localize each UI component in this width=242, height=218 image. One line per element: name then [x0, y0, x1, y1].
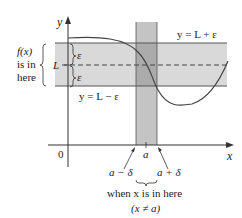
x-axis-label: x [226, 149, 233, 163]
a-plus-delta-label: a + δ [157, 166, 181, 178]
x-axis-arrow-icon [226, 142, 234, 148]
delta-brace [136, 180, 157, 186]
x-not-a-label: (x ≠ a) [131, 202, 161, 215]
arrow-head-right-icon [158, 147, 162, 152]
is-in-label: is in [17, 58, 36, 70]
a-minus-delta-label: a − δ [109, 166, 133, 178]
origin-label: 0 [58, 148, 64, 160]
epsilon-upper-label: ε [77, 49, 82, 61]
epsilon-delta-diagram: y x 0 y = L + ε y = L − ε L ε ε f(x) is … [0, 0, 242, 218]
lower-bound-label: y = L − ε [79, 90, 119, 102]
fx-label: f(x) [17, 45, 33, 58]
fx-brace [40, 44, 46, 86]
upper-bound-label: y = L + ε [177, 28, 217, 40]
y-axis-arrow-icon [65, 16, 71, 24]
when-x-label: when x is in here [107, 187, 182, 199]
arrow-head-left-icon [131, 147, 135, 152]
here-label: here [17, 71, 36, 83]
epsilon-lower-label: ε [77, 71, 82, 83]
a-label: a [143, 148, 149, 160]
L-label: L [52, 59, 59, 71]
y-axis-label: y [56, 15, 63, 29]
